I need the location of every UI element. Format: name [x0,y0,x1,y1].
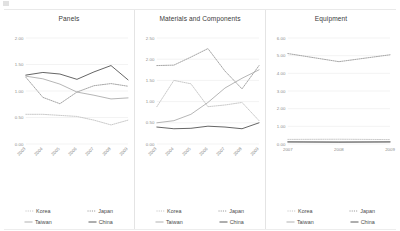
x-axis-tick-label: 2009 [118,146,129,157]
legend-item-label: Taiwan [297,219,314,225]
series-line-korea [26,114,128,125]
series-line-china [157,123,259,129]
line-chart-panels: 0.000.501.001.502.0020032004200520062007… [4,32,134,180]
x-axis-tick-label: 2004 [164,146,175,157]
legend-line-swatch-icon [349,209,358,213]
y-axis-tick-label: 1.50 [15,62,24,67]
legend-line-swatch-icon [219,220,228,224]
y-axis-tick-label: 0.00 [277,142,286,147]
chart-panel-materials-and-components: Materials and Components 0.000.501.001.5… [134,10,265,229]
legend-item-japan[interactable]: Japan [69,208,131,214]
legend-item-taiwan[interactable]: Taiwan [269,219,331,225]
legend-materials-and-components: KoreaJapanTaiwanChina [135,208,265,225]
y-axis-tick-label: 4.00 [277,71,286,76]
plot-area-panels: 0.000.501.001.502.0020032004200520062007… [4,32,134,180]
legend-item-label: Korea [167,208,181,214]
x-axis-tick-label: 2004 [33,146,44,157]
y-axis-tick-label: 1.50 [146,78,155,83]
legend-line-swatch-icon [25,209,34,213]
legend-item-china[interactable]: China [69,219,131,225]
legend-item-label: Japan [360,208,375,214]
legend-item-taiwan[interactable]: Taiwan [138,219,200,225]
chart-panel-panels: Panels 0.000.501.001.502.002003200420052… [4,10,134,229]
y-axis-tick-label: 0.50 [15,115,24,120]
legend-item-label: Japan [229,208,244,214]
page-title: Materials and Components [135,15,265,22]
x-axis-tick-label: 2007 [283,147,293,152]
legend-item-korea[interactable]: Korea [138,208,200,214]
x-axis-tick-label: 2007 [215,146,226,157]
y-axis-tick-label: 2.00 [277,106,286,111]
legend-item-korea[interactable]: Korea [269,208,331,214]
legend-item-label: Japan [98,208,113,214]
y-axis-tick-label: 2.50 [146,36,155,41]
x-axis-tick-label: 2009 [385,147,395,152]
legend-line-swatch-icon [155,220,164,224]
legend-line-swatch-icon [287,209,296,213]
y-axis-tick-label: 2.00 [15,36,24,41]
series-line-japan [288,54,390,62]
y-axis-tick-label: 2.00 [146,57,155,62]
x-axis-tick-label: 2003 [16,146,27,157]
y-axis-tick-label: 1.00 [15,89,24,94]
x-axis-tick-label: 2008 [334,147,344,152]
legend-line-swatch-icon [218,209,227,213]
series-line-japan [26,77,128,104]
x-axis-tick-label: 2008 [101,146,112,157]
y-axis-tick-label: 0.50 [146,120,155,125]
x-axis-tick-label: 2007 [84,146,95,157]
chart-panel-equipment: Equipment 0.001.002.003.004.005.006.0020… [265,10,396,229]
legend-line-swatch-icon [24,220,33,224]
legend-equipment: KoreaJapanTaiwanChina [266,208,396,225]
line-chart-equipment: 0.001.002.003.004.005.006.00200720082009 [266,32,396,180]
y-axis-tick-label: 3.00 [277,89,286,94]
legend-item-japan[interactable]: Japan [200,208,262,214]
legend-item-label: China [361,219,375,225]
legend-item-korea[interactable]: Korea [7,208,69,214]
legend-line-swatch-icon [88,220,97,224]
page-title: Equipment [266,15,396,22]
chart-panel-row: Panels 0.000.501.001.502.002003200420052… [4,9,396,230]
line-chart-materials-and-components: 0.000.501.001.502.002.502003200420052006… [135,32,265,180]
x-axis-tick-label: 2005 [181,146,192,157]
legend-line-swatch-icon [286,220,295,224]
legend-line-swatch-icon [156,209,165,213]
legend-item-label: Korea [36,208,50,214]
x-axis-tick-label: 2008 [232,146,243,157]
y-axis-tick-label: 1.00 [146,99,155,104]
x-axis-tick-label: 2006 [67,146,78,157]
legend-item-japan[interactable]: Japan [331,208,393,214]
x-axis-tick-label: 2005 [50,146,61,157]
y-axis-tick-label: 5.00 [277,53,286,58]
series-line-taiwan [157,70,259,123]
legend-item-label: Korea [298,208,312,214]
plot-area-equipment: 0.001.002.003.004.005.006.00200720082009 [266,32,396,180]
legend-item-china[interactable]: China [331,219,393,225]
y-axis-tick-label: 6.00 [277,36,286,41]
series-line-china [26,66,128,80]
figure-root: Panels 0.000.501.001.502.002003200420052… [0,0,400,231]
legend-line-swatch-icon [87,209,96,213]
legend-item-label: China [99,219,113,225]
legend-item-label: China [230,219,244,225]
legend-item-taiwan[interactable]: Taiwan [7,219,69,225]
legend-item-china[interactable]: China [200,219,262,225]
legend-line-swatch-icon [350,220,359,224]
y-axis-tick-label: 1.00 [277,124,286,129]
legend-item-label: Taiwan [35,219,52,225]
page-title: Panels [4,15,134,22]
x-axis-tick-label: 2003 [147,146,158,157]
legend-panels: KoreaJapanTaiwanChina [4,208,134,225]
legend-item-label: Taiwan [166,219,183,225]
x-axis-tick-label: 2006 [198,146,209,157]
x-axis-tick-label: 2009 [249,146,260,157]
plot-area-materials-and-components: 0.000.501.001.502.002.502003200420052006… [135,32,265,180]
corner-artifact [3,1,9,6]
